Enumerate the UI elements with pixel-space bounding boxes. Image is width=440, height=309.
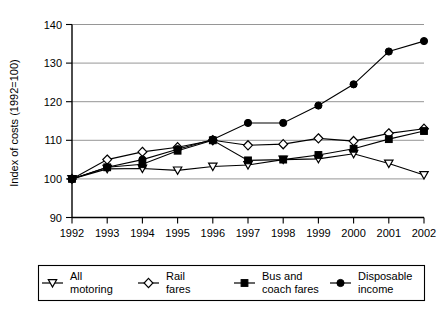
x-tick-label-2001: 2001	[377, 227, 401, 239]
legend-label-line2: income	[358, 283, 393, 295]
y-tick-label-110: 110	[44, 134, 62, 146]
x-tick-label-1997: 1997	[236, 227, 260, 239]
marker-circle-filled	[209, 136, 216, 143]
legend-label-line1: All	[70, 270, 82, 282]
marker-circle-filled	[280, 119, 287, 126]
x-tick-label-1993: 1993	[95, 227, 119, 239]
marker-circle-filled	[385, 48, 392, 55]
legend-label-line2: coach fares	[262, 283, 319, 295]
marker-diamond-open	[314, 134, 323, 143]
marker-square-filled	[350, 145, 357, 152]
index-of-costs-line-chart: Index of costs (1992=100) 140 130 120 11…	[0, 0, 440, 309]
legend-label-line1: Bus and	[262, 270, 302, 282]
marker-square-filled	[245, 157, 252, 164]
marker-diamond-open	[144, 278, 153, 287]
marker-diamond-open	[138, 147, 147, 156]
y-axis-title-text: Index of costs (1992=100)	[8, 59, 20, 187]
legend-label-line2: fares	[166, 283, 191, 295]
marker-diamond-open	[279, 140, 288, 149]
y-axis: 140 130 120 110 100 90	[44, 19, 72, 224]
x-tick-label-1998: 1998	[271, 227, 295, 239]
marker-triangle-down-open	[420, 172, 428, 179]
x-tick-label-2002: 2002	[412, 227, 436, 239]
legend-item-bus-and[interactable]: Bus andcoach fares	[234, 270, 319, 295]
marker-diamond-open	[103, 155, 112, 164]
series-rail-fares	[68, 124, 429, 183]
y-tick-label-90: 90	[50, 212, 62, 224]
marker-circle-filled	[420, 37, 427, 44]
marker-square-filled	[241, 280, 248, 287]
series-all-motoring	[68, 150, 428, 182]
x-axis: 1992199319941995199619971998199920002001…	[60, 218, 436, 239]
marker-square-filled	[421, 128, 428, 135]
marker-circle-filled	[244, 119, 251, 126]
marker-square-filled	[280, 156, 287, 163]
legend-label-line1: Disposable	[358, 270, 412, 282]
x-tick-marks	[72, 218, 424, 224]
marker-circle-filled	[350, 81, 357, 88]
marker-circle-filled	[139, 156, 146, 163]
x-tick-labels: 1992199319941995199619971998199920002001…	[60, 227, 436, 239]
marker-square-filled	[385, 136, 392, 143]
y-tick-label-130: 130	[44, 57, 62, 69]
x-tick-label-1999: 1999	[306, 227, 330, 239]
marker-diamond-open	[349, 136, 358, 145]
marker-triangle-down-open	[385, 160, 393, 167]
plot-series-group	[68, 37, 429, 183]
marker-circle-filled	[104, 164, 111, 171]
x-tick-label-1994: 1994	[130, 227, 154, 239]
marker-square-filled	[315, 152, 322, 159]
legend-item-all[interactable]: Allmotoring	[42, 270, 113, 295]
series-bus-and-coach-fares	[69, 128, 428, 183]
x-tick-label-1996: 1996	[201, 227, 225, 239]
y-tick-label-100: 100	[44, 173, 62, 185]
marker-circle-filled	[337, 279, 344, 286]
series-line	[72, 129, 424, 179]
legend-items-group: AllmotoringRailfaresBus andcoach faresDi…	[42, 270, 412, 295]
legend-item-disposable[interactable]: Disposableincome	[330, 270, 412, 295]
marker-circle-filled	[174, 146, 181, 153]
x-tick-label-1992: 1992	[60, 227, 84, 239]
chart-legend: AllmotoringRailfaresBus andcoach faresDi…	[39, 266, 425, 301]
marker-circle-filled	[68, 175, 75, 182]
legend-item-rail[interactable]: Railfares	[138, 270, 191, 295]
y-axis-title: Index of costs (1992=100)	[8, 59, 20, 187]
series-line	[72, 131, 424, 179]
marker-diamond-open	[244, 141, 253, 150]
legend-label-line2: motoring	[70, 283, 113, 295]
chart-figure: Index of costs (1992=100) 140 130 120 11…	[0, 0, 440, 309]
y-tick-label-120: 120	[44, 96, 62, 108]
marker-circle-filled	[315, 102, 322, 109]
legend-label-line1: Rail	[166, 270, 185, 282]
x-tick-label-2000: 2000	[341, 227, 365, 239]
y-tick-label-140: 140	[44, 19, 62, 31]
x-tick-label-1995: 1995	[165, 227, 189, 239]
